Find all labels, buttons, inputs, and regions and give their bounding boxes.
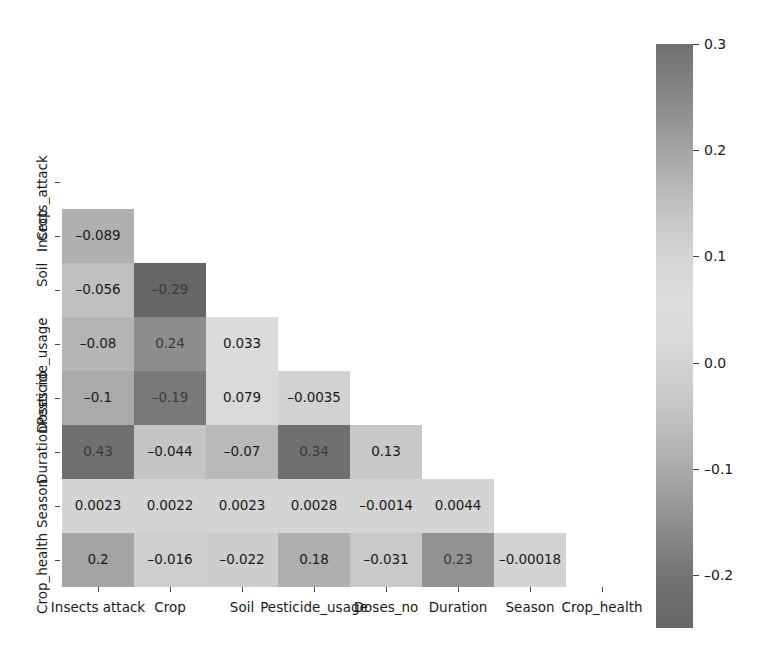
- x-tick-mark: [386, 587, 387, 592]
- colorbar-tick-label: 0.1: [704, 248, 726, 264]
- heatmap-cell-value: 0.0023: [219, 499, 266, 513]
- colorbar-tick-mark: [693, 363, 699, 364]
- y-axis: Insects_attackCropSoilPesticide_usageDos…: [0, 155, 62, 587]
- x-tick-mark: [98, 587, 99, 592]
- x-tick-label: Pesticide_usage: [260, 599, 368, 615]
- heatmap-cell-value: 0.033: [223, 337, 261, 351]
- heatmap-cell: 0.18: [278, 533, 350, 587]
- colorbar-tick-label: 0.2: [704, 142, 726, 158]
- heatmap-cell-value: 0.43: [83, 445, 113, 459]
- y-tick-label: Crop: [34, 209, 50, 263]
- heatmap-cell: 0.34: [278, 425, 350, 479]
- heatmap-cell-value: 0.0022: [147, 499, 194, 513]
- y-tick-label: Soil: [34, 263, 50, 317]
- heatmap-cell-value: 0.0028: [291, 499, 338, 513]
- heatmap-cell: –0.056: [62, 263, 134, 317]
- heatmap-cell: –0.29: [134, 263, 206, 317]
- heatmap-cell-value: –0.00018: [499, 553, 561, 567]
- heatmap-cell: 0.2: [62, 533, 134, 587]
- y-tick-label: Duration: [34, 425, 50, 479]
- colorbar-tick-mark: [693, 150, 699, 151]
- colorbar-tick-label: –0.1: [704, 461, 733, 477]
- colorbar-tick-mark: [693, 469, 699, 470]
- heatmap-cell: 0.033: [206, 317, 278, 371]
- heatmap-cell: 0.0028: [278, 479, 350, 533]
- heatmap-cell-value: –0.016: [148, 553, 193, 567]
- colorbar-tick-mark: [693, 256, 699, 257]
- colorbar-tick-label: –0.2: [704, 567, 733, 583]
- heatmap-cell-value: 0.2: [87, 553, 108, 567]
- heatmap-cell: –0.0035: [278, 371, 350, 425]
- colorbar-tick-mark: [693, 44, 699, 45]
- x-tick-label: Doses_no: [354, 599, 419, 615]
- heatmap-cell: 0.23: [422, 533, 494, 587]
- heatmap-cell-value: –0.19: [152, 391, 188, 405]
- heatmap-cell: 0.079: [206, 371, 278, 425]
- heatmap-cell: –0.016: [134, 533, 206, 587]
- heatmap-cell: –0.08: [62, 317, 134, 371]
- y-tick-label: Pesticide_usage: [34, 317, 50, 371]
- colorbar-tick-mark: [693, 575, 699, 576]
- heatmap-cell-value: 0.0044: [435, 499, 482, 513]
- heatmap-cell: –0.1: [62, 371, 134, 425]
- heatmap-plot-area: –0.089–0.056–0.29–0.080.240.033–0.1–0.19…: [62, 155, 638, 587]
- heatmap-cell: 0.0022: [134, 479, 206, 533]
- heatmap-cell-value: 0.24: [155, 337, 185, 351]
- heatmap-cell-value: 0.079: [223, 391, 261, 405]
- heatmap-cell-value: –0.0014: [359, 499, 412, 513]
- heatmap-cell-value: –0.056: [76, 283, 121, 297]
- heatmap-cell: –0.022: [206, 533, 278, 587]
- y-tick-mark: [55, 344, 60, 345]
- heatmap-cell-value: 0.18: [299, 553, 329, 567]
- heatmap-cell: –0.19: [134, 371, 206, 425]
- heatmap-cell-value: –0.022: [220, 553, 265, 567]
- heatmap-cell-value: –0.089: [76, 229, 121, 243]
- y-tick-mark: [55, 506, 60, 507]
- heatmap-cell-value: 0.34: [299, 445, 329, 459]
- x-tick-mark: [314, 587, 315, 592]
- heatmap-cell: 0.0044: [422, 479, 494, 533]
- colorbar: 0.30.20.10.0–0.1–0.2: [656, 44, 693, 628]
- heatmap-cell: –0.044: [134, 425, 206, 479]
- heatmap-cell-value: –0.08: [80, 337, 116, 351]
- x-tick-label: Crop: [154, 599, 186, 615]
- y-tick-mark: [55, 560, 60, 561]
- heatmap-cell: 0.43: [62, 425, 134, 479]
- y-tick-mark: [55, 236, 60, 237]
- x-tick-mark: [530, 587, 531, 592]
- heatmap-cell: 0.0023: [62, 479, 134, 533]
- heatmap-cell-value: –0.044: [148, 445, 193, 459]
- heatmap-cell: –0.00018: [494, 533, 566, 587]
- heatmap-cell-value: –0.0035: [287, 391, 340, 405]
- colorbar-tick-label: 0.3: [704, 36, 726, 52]
- heatmap-cell-value: –0.29: [152, 283, 188, 297]
- colorbar-gradient: [656, 44, 693, 628]
- x-axis: Insects attackCropSoilPesticide_usageDos…: [62, 587, 638, 627]
- heatmap-cell: –0.089: [62, 209, 134, 263]
- x-tick-mark: [602, 587, 603, 592]
- x-tick-label: Duration: [429, 599, 488, 615]
- y-tick-label: Season: [34, 479, 50, 533]
- colorbar-tick-label: 0.0: [704, 355, 726, 371]
- y-tick-mark: [55, 290, 60, 291]
- heatmap-cell: –0.0014: [350, 479, 422, 533]
- heatmap-cell: 0.0023: [206, 479, 278, 533]
- x-tick-label: Soil: [230, 599, 254, 615]
- x-tick-label: Season: [506, 599, 555, 615]
- heatmap-cell-value: –0.07: [224, 445, 260, 459]
- x-tick-mark: [458, 587, 459, 592]
- heatmap-cell: 0.24: [134, 317, 206, 371]
- x-tick-mark: [242, 587, 243, 592]
- y-tick-mark: [55, 182, 60, 183]
- y-tick-mark: [55, 452, 60, 453]
- heatmap-cell-value: 0.13: [371, 445, 401, 459]
- heatmap-cell: –0.07: [206, 425, 278, 479]
- heatmap-cell-value: –0.1: [84, 391, 112, 405]
- y-tick-label: Crop_health: [34, 533, 50, 587]
- x-tick-label: Insects attack: [51, 599, 145, 615]
- y-tick-label: Insects_attack: [34, 155, 50, 209]
- heatmap-cell-value: 0.0023: [75, 499, 122, 513]
- y-tick-mark: [55, 398, 60, 399]
- x-tick-mark: [170, 587, 171, 592]
- y-tick-label: Doses no: [34, 371, 50, 425]
